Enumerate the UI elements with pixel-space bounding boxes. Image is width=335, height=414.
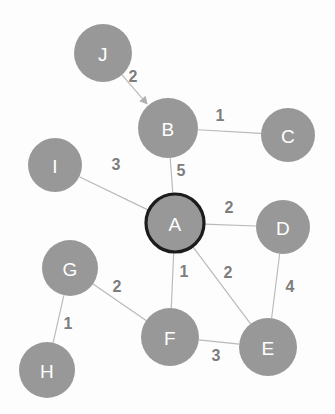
edge-weight-g-h: 1	[64, 315, 73, 332]
edge-weight-i-a: 3	[112, 156, 121, 173]
node-label-d: D	[276, 218, 290, 239]
edge-weight-g-f: 2	[113, 278, 122, 295]
graph-node-b[interactable]: B	[138, 98, 198, 158]
edge-i-a	[79, 177, 149, 211]
edge-weight-a-d: 2	[225, 199, 234, 216]
edge-d-e	[272, 254, 280, 318]
nodes-layer: JBCIADGFEH	[19, 24, 315, 398]
edge-g-h	[53, 295, 64, 342]
edge-weight-d-e: 4	[286, 278, 295, 295]
node-label-j: J	[98, 44, 108, 65]
graph-node-a[interactable]: A	[146, 194, 204, 252]
node-label-f: F	[164, 328, 176, 349]
graph-node-j[interactable]: J	[74, 24, 132, 82]
edge-weight-b-a: 5	[177, 162, 186, 179]
edge-b-a	[170, 158, 173, 194]
edge-a-f	[171, 252, 173, 308]
graph-node-h[interactable]: H	[19, 342, 75, 398]
graph-node-d[interactable]: D	[256, 200, 310, 254]
edge-weight-a-f: 1	[180, 263, 189, 280]
edge-f-e	[199, 340, 239, 344]
edge-weight-j-b: 2	[129, 68, 138, 85]
graph-node-f[interactable]: F	[141, 308, 199, 366]
edge-weight-a-e: 2	[224, 264, 233, 281]
graph-node-e[interactable]: E	[239, 318, 297, 376]
node-label-a: A	[168, 214, 181, 235]
edge-b-c	[198, 130, 261, 134]
node-label-g: G	[62, 259, 77, 280]
node-label-i: I	[52, 156, 58, 177]
node-label-h: H	[40, 361, 54, 382]
graph-diagram: JBCIADGFEH 21532124213	[0, 0, 335, 414]
edge-weight-f-e: 3	[212, 347, 221, 364]
edge-a-e	[192, 246, 250, 324]
graph-node-i[interactable]: I	[28, 138, 82, 192]
node-label-b: B	[161, 119, 174, 140]
graph-node-g[interactable]: G	[42, 240, 98, 296]
graph-svg: JBCIADGFEH 21532124213	[0, 0, 335, 414]
node-label-c: C	[281, 126, 295, 147]
edge-a-d	[204, 224, 256, 226]
node-label-e: E	[261, 338, 274, 359]
edge-weight-b-c: 1	[216, 107, 225, 124]
graph-node-c[interactable]: C	[261, 108, 315, 162]
